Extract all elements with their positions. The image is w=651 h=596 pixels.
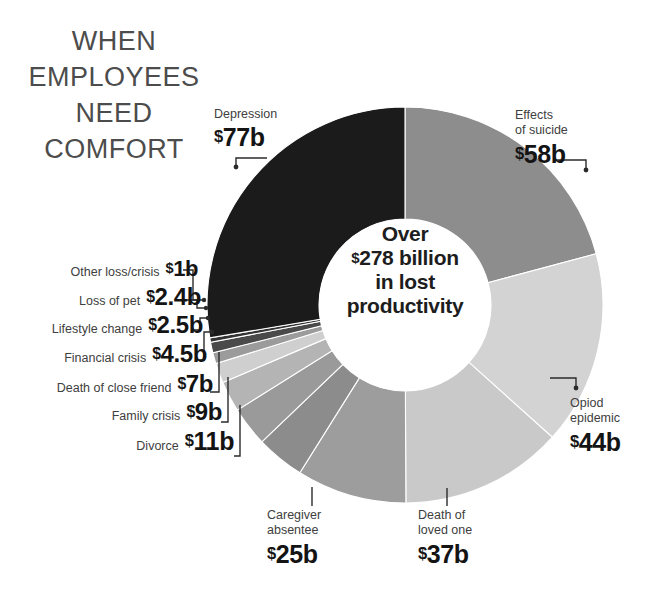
currency-symbol: $: [165, 260, 173, 276]
page-title: WHEN EMPLOYEES NEED COMFORT: [14, 24, 214, 168]
callout-caregiver: Caregiver absentee $25b: [267, 508, 321, 571]
currency-symbol: $: [177, 375, 185, 392]
callout-opioid-label-1: Opiod: [570, 396, 621, 411]
center-amount-value: 278 billion: [359, 246, 458, 269]
callout-label: Family crisis: [112, 409, 181, 423]
callout-opioid-label-2: epidemic: [570, 411, 621, 426]
callout-opioid: Opiod epidemic $44b: [570, 396, 621, 459]
callout-lifestyle-change: Lifestyle change$2.5b: [10, 311, 203, 339]
callout-value: $2.5b: [148, 311, 203, 339]
callout-death-of-close-friend: Death of close friend$7b: [10, 370, 213, 398]
title-line-2: EMPLOYEES: [14, 60, 214, 96]
callout-value: $4.5b: [152, 340, 207, 368]
callout-label: Death of close friend: [57, 381, 172, 395]
callout-suicide-label-1: Effects: [515, 108, 568, 123]
callout-loved-one-value: $37b: [418, 538, 472, 572]
center-line-over: Over: [320, 222, 490, 246]
currency-symbol: $: [152, 345, 160, 362]
callout-value-number: 1b: [173, 256, 198, 281]
callout-other-loss-crisis: Other loss/crisis$1b: [10, 256, 198, 282]
callout-financial-crisis: Financial crisis$4.5b: [10, 340, 207, 368]
callout-loss-of-pet: Loss of pet$2.4b: [10, 283, 201, 311]
callout-depression-label: Depression: [214, 107, 277, 122]
callout-value: $11b: [185, 427, 234, 456]
callout-value-number: 2.5b: [157, 311, 203, 338]
callout-label: Financial crisis: [64, 351, 146, 365]
title-line-4: COMFORT: [14, 132, 214, 168]
callout-caregiver-label-2: absentee: [267, 523, 321, 538]
callout-value-number: 7b: [186, 370, 213, 397]
center-line-productivity: productivity: [320, 294, 490, 318]
center-line-inlost: in lost: [320, 270, 490, 294]
callout-loved-one-label-2: loved one: [418, 523, 472, 538]
callout-suicide-value: $58b: [515, 138, 568, 171]
callout-value: $9b: [186, 398, 222, 426]
currency-symbol: $: [146, 288, 154, 305]
callout-opioid-value: $44b: [570, 426, 621, 460]
currency-symbol: $: [148, 316, 156, 333]
currency-symbol: $: [185, 431, 194, 449]
title-line-3: NEED: [14, 96, 214, 132]
callout-caregiver-value: $25b: [267, 538, 321, 572]
callout-divorce: Divorce$11b: [10, 427, 234, 456]
callout-depression: Depression $77b: [214, 107, 277, 153]
callout-value-number: 2.4b: [155, 283, 201, 310]
callout-value-number: 11b: [194, 427, 235, 455]
callout-value-number: 9b: [195, 398, 222, 425]
callout-caregiver-label-1: Caregiver: [267, 508, 321, 523]
callout-label: Other loss/crisis: [71, 265, 160, 279]
callout-value: $7b: [177, 370, 213, 398]
infographic-canvas: WHEN EMPLOYEES NEED COMFORT Over $278 bi…: [0, 0, 651, 596]
callout-label: Loss of pet: [79, 294, 140, 308]
callout-depression-value: $77b: [214, 122, 277, 153]
callout-label: Lifestyle change: [52, 322, 142, 336]
currency-symbol: $: [186, 403, 194, 420]
callout-suicide-label-2: of suicide: [515, 123, 568, 138]
callout-value: $2.4b: [146, 283, 201, 311]
callout-suicide: Effects of suicide $58b: [515, 108, 568, 170]
callout-loved-one-label-1: Death of: [418, 508, 472, 523]
callout-loved-one: Death of loved one $37b: [418, 508, 472, 571]
callout-value: $1b: [165, 256, 198, 282]
center-line-amount: $278 billion: [320, 246, 490, 270]
title-line-1: WHEN: [14, 24, 214, 60]
callout-label: Divorce: [136, 439, 178, 453]
callout-value-number: 4.5b: [161, 340, 207, 367]
callout-family-crisis: Family crisis$9b: [10, 398, 222, 426]
center-total-text: Over $278 billion in lost productivity: [320, 222, 490, 318]
